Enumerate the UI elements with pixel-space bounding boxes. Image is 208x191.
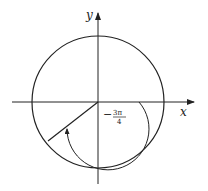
angle-sign: − xyxy=(103,108,112,121)
x-axis-label: x xyxy=(180,105,187,119)
angle-numerator: 3π xyxy=(113,109,122,117)
unit-circle-diagram: y x − 3π 4 xyxy=(0,0,208,191)
y-axis-label: y xyxy=(85,8,93,22)
angle-denominator: 4 xyxy=(117,118,122,126)
terminal-ray xyxy=(48,102,98,141)
